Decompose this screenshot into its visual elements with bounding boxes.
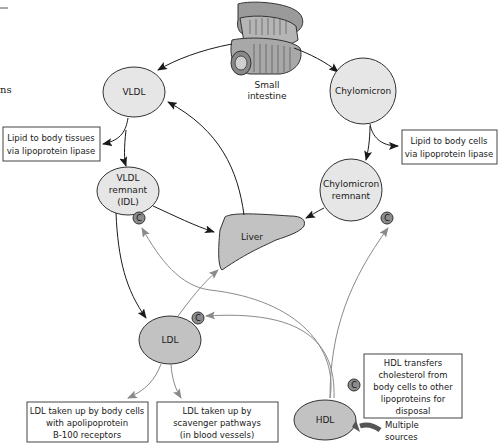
lipid-cells-line2: via lipoprotein lipase: [405, 149, 494, 159]
arrow-vldl-to-lipid-box: [103, 118, 128, 144]
cholesterol-badge-remnant-label: C: [384, 214, 390, 223]
ldl-scavenger-line1: LDL taken up by: [182, 406, 251, 416]
small-intestine-icon: [231, 2, 303, 75]
idl-label-line1: VLDL: [116, 173, 139, 183]
hdl-transfer-line2: cholesterol from: [378, 370, 447, 380]
hdl-transfer-line5: disposal: [396, 406, 431, 416]
hdl-transfer-line3: body cells to other: [373, 382, 453, 392]
ldl-body-cells-line1: LDL taken up by body cells: [30, 406, 145, 416]
margin-text-fragment: ns: [0, 84, 12, 95]
multiple-sources-arrow: [360, 425, 380, 430]
multiple-sources-line1: Multiple: [385, 420, 419, 430]
ldl-body-cells-line3: B-100 receptors: [53, 430, 122, 440]
arrow-ldl-to-liver: [178, 270, 218, 316]
arrow-ldl-to-body-cells: [128, 364, 161, 398]
lipid-cells-line1: Lipid to body cells: [411, 136, 489, 146]
arrow-chylo-to-remnant: [366, 126, 370, 160]
remnant-label-line2: remnant: [332, 191, 371, 201]
idl-label-line2: remnant: [109, 185, 148, 195]
remnant-label-line1: Chylomicron: [323, 179, 379, 189]
liver-label: Liver: [241, 232, 263, 242]
arrow-chylo-to-lipid-box: [370, 124, 398, 146]
arrow-remnant-to-liver: [306, 208, 324, 218]
arrow-idl-to-ldl: [116, 213, 146, 318]
ldl-scavenger-line2: scavenger pathways: [173, 418, 261, 428]
cholesterol-badge-hdl-label: C: [351, 381, 357, 390]
arrow-vldl-to-idl: [125, 130, 127, 166]
intestine-label-line2: intestine: [247, 91, 287, 101]
hdl-transfer-line1: HDL transfers: [384, 358, 443, 368]
arrow-idl-to-liver: [153, 206, 214, 232]
vldl-label: VLDL: [122, 87, 145, 97]
arrow-intestine-to-vldl: [158, 44, 232, 70]
cholesterol-badge-idl-label: C: [136, 214, 142, 223]
cholesterol-badge-ldl-label: C: [195, 314, 201, 323]
hdl-label: HDL: [316, 415, 335, 425]
lipid-tissues-line2: via lipoprotein lipase: [7, 146, 96, 156]
arrow-liver-to-vldl: [168, 102, 244, 215]
chylomicron-label: Chylomicron: [335, 86, 391, 96]
lipid-tissues-line1: Lipid to body tissues: [7, 133, 95, 143]
ldl-scavenger-line3: (in blood vessels): [180, 430, 254, 440]
idl-label-line3: (IDL): [117, 197, 139, 207]
arrow-hdl-to-ldl-cholesterol: [206, 315, 334, 398]
arrow-ldl-to-scavenger: [171, 364, 181, 398]
ldl-body-cells-line2: with apolipoprotein: [46, 418, 128, 428]
hdl-transfer-line4: lipoproteins for: [381, 394, 446, 404]
multiple-sources-line2: sources: [385, 432, 418, 442]
intestine-label-line1: Small: [255, 80, 280, 90]
lipoprotein-pathway-diagram: ns Small intestine VLDL Chylomicron Lipi…: [0, 0, 499, 446]
chylomicron-remnant-node: [320, 159, 382, 221]
ldl-label: LDL: [162, 335, 179, 345]
